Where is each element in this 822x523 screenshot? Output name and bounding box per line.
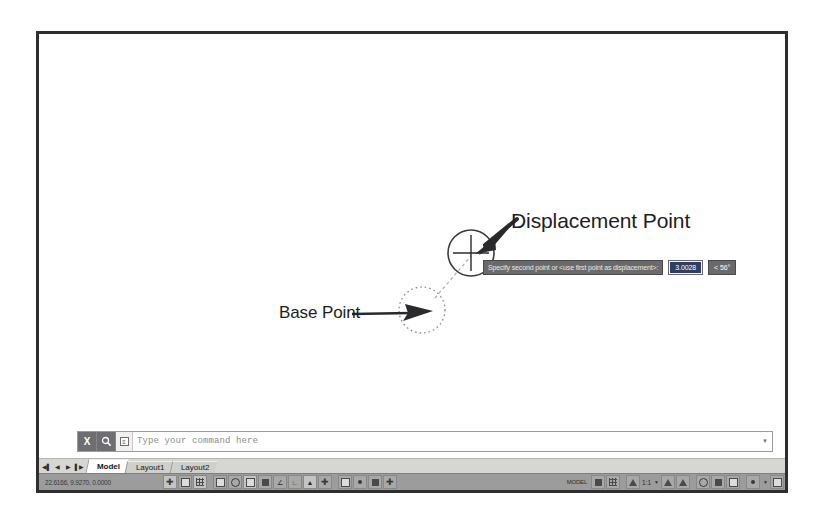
customization-icon[interactable]: [770, 475, 784, 489]
autocad-window-frame: Displacement Point Base Point Specify se…: [36, 31, 788, 493]
tab-model-label: Model: [97, 462, 120, 471]
tab-layout1-label: Layout1: [136, 463, 164, 472]
close-icon[interactable]: X: [78, 432, 97, 451]
annotation-scale-label[interactable]: 1:1: [641, 479, 652, 486]
command-line-zone: X ≡ Type your command here ▼: [39, 424, 785, 458]
3d-object-snap-toggle[interactable]: [258, 475, 272, 489]
next-tab-icon[interactable]: ▶: [63, 461, 74, 472]
coordinate-readout[interactable]: 22.6166, 9.9270, 0.0000: [39, 479, 163, 486]
tab-layout2-label: Layout2: [180, 463, 208, 472]
first-tab-icon[interactable]: ◀▌: [41, 461, 52, 472]
command-icon[interactable]: ≡: [116, 432, 133, 451]
command-line[interactable]: X ≡ Type your command here ▼: [77, 431, 773, 452]
annotation-monitor-toggle[interactable]: [368, 475, 382, 489]
dynamic-input-angle-field[interactable]: < 56°: [708, 260, 736, 275]
tab-navigation: ◀▌ ◀ ▶ ▌▶: [39, 459, 87, 473]
units-toggle[interactable]: ✚: [383, 475, 397, 489]
drafting-toggles: ✚ ∠ ∟ ▲ ✚ ✚: [163, 475, 398, 490]
prev-tab-icon[interactable]: ◀: [52, 461, 63, 472]
grid-snap-toggle[interactable]: [193, 475, 207, 489]
hardware-accel-icon[interactable]: [726, 475, 740, 489]
isolate-objects-icon[interactable]: [696, 475, 710, 489]
screenshot-root: Displacement Point Base Point Specify se…: [0, 0, 822, 523]
command-input[interactable]: Type your command here: [133, 432, 758, 451]
object-snap-tracking-toggle[interactable]: ∠: [273, 475, 287, 489]
tab-model[interactable]: Model: [86, 459, 129, 473]
base-point-circle: [399, 287, 445, 333]
tab-layout2[interactable]: Layout2: [169, 461, 217, 473]
dynamic-input-distance-value: 3.0028: [670, 262, 701, 273]
viewport-config-icon[interactable]: [606, 475, 620, 489]
transparency-toggle[interactable]: [338, 475, 352, 489]
drawing-canvas[interactable]: Displacement Point Base Point Specify se…: [39, 34, 785, 490]
base-leader-arrow: [352, 304, 433, 321]
tab-layout1[interactable]: Layout1: [125, 461, 173, 473]
autoscale-icon[interactable]: [661, 475, 675, 489]
lock-ui-icon[interactable]: [711, 475, 725, 489]
snap-mode-toggle[interactable]: ✚: [163, 475, 177, 489]
object-snap-toggle[interactable]: [243, 475, 257, 489]
dynamic-input-toggle[interactable]: ▲: [303, 475, 317, 489]
dynamic-ucs-toggle[interactable]: ∟: [288, 475, 302, 489]
rubber-band-line: [435, 256, 471, 298]
annotation-monitor-icon[interactable]: [676, 475, 690, 489]
ortho-mode-toggle[interactable]: [213, 475, 227, 489]
last-tab-icon[interactable]: ▌▶: [74, 461, 85, 472]
polar-tracking-toggle[interactable]: [228, 475, 242, 489]
dynamic-input-prompt: Specify second point or <use first point…: [483, 260, 663, 275]
selection-cycling-toggle[interactable]: [353, 475, 367, 489]
magnifier-icon[interactable]: [97, 432, 116, 451]
grid-display-toggle[interactable]: [178, 475, 192, 489]
clean-screen-icon[interactable]: [746, 475, 760, 489]
annotation-scale-chevron-icon[interactable]: ▼: [652, 479, 661, 485]
space-indicator[interactable]: MODEL: [563, 479, 591, 485]
dynamic-input-tooltip[interactable]: Specify second point or <use first point…: [483, 260, 736, 275]
layout-tab-strip: ◀▌ ◀ ▶ ▌▶ Model Layout1 Layout2: [39, 458, 785, 473]
right-status-tools: 1:1 ▼ ▼: [591, 475, 785, 490]
status-bar: 22.6166, 9.9270, 0.0000 ✚ ∠ ∟ ▲ ✚ ✚: [39, 473, 785, 490]
annotation-visibility-icon[interactable]: [626, 475, 640, 489]
base-point-annotation: Base Point: [279, 303, 360, 323]
workspace-switch-icon[interactable]: [591, 475, 605, 489]
dynamic-input-distance-field[interactable]: 3.0028: [668, 260, 703, 275]
customization-chevron-icon[interactable]: ▼: [761, 479, 770, 485]
lineweight-toggle[interactable]: ✚: [318, 475, 332, 489]
displacement-point-annotation: Displacement Point: [511, 209, 690, 233]
chevron-down-icon[interactable]: ▼: [758, 432, 772, 451]
